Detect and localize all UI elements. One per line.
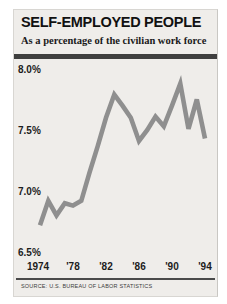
source-rule [16,278,215,280]
page: SELF-EMPLOYED PEOPLE As a percentage of … [0,0,227,304]
plot-area [14,59,217,259]
y-axis-label-6-5: 6.5% [18,247,48,258]
chart-card: SELF-EMPLOYED PEOPLE As a percentage of … [13,9,218,297]
x-axis-label-82: '82 [89,261,123,272]
x-axis-label-94: '94 [188,261,222,272]
y-axis-label-7-5: 7.5% [18,125,48,136]
x-axis-label-1974: 1974 [21,261,55,272]
chart-title: SELF-EMPLOYED PEOPLE [21,14,213,30]
source-text: SOURCE: U.S. BUREAU OF LABOR STATISTICS [21,283,213,289]
x-axis-label-78: '78 [56,261,90,272]
y-axis-label-8-0: 8.0% [18,64,48,75]
x-axis-label-86: '86 [122,261,156,272]
chart-subtitle: As a percentage of the civilian work for… [21,35,213,46]
x-axis-label-90: '90 [155,261,189,272]
y-axis-label-7-0: 7.0% [18,186,48,197]
